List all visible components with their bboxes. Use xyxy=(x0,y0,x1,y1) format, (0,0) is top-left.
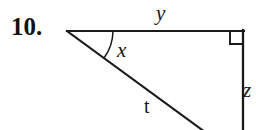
label-right-side-z: z xyxy=(243,79,251,101)
triangle-hypotenuse xyxy=(67,31,205,130)
label-hypotenuse-t: t xyxy=(144,96,150,117)
angle-arc xyxy=(104,31,113,58)
problem-number: 10. xyxy=(11,14,42,40)
label-angle-x: x xyxy=(117,39,126,61)
label-top-side-y: y xyxy=(156,2,165,24)
right-angle-marker xyxy=(230,31,243,44)
geometry-figure: 10. y x z t xyxy=(0,0,256,130)
